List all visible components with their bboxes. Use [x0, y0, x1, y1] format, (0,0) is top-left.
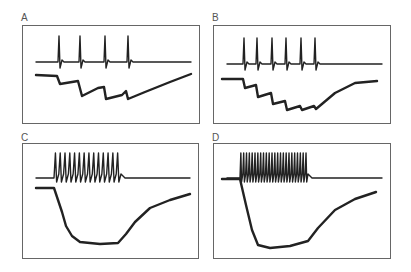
upper-trace-b: [227, 38, 382, 70]
upper-trace-c: [36, 153, 190, 182]
lower-trace-a: [36, 74, 191, 99]
upper-trace-d: [227, 153, 382, 182]
lower-trace-c: [36, 188, 190, 244]
lower-trace-b: [222, 79, 377, 110]
lower-trace-d: [222, 179, 376, 248]
upper-trace-a: [36, 36, 191, 68]
traces: [0, 0, 411, 272]
